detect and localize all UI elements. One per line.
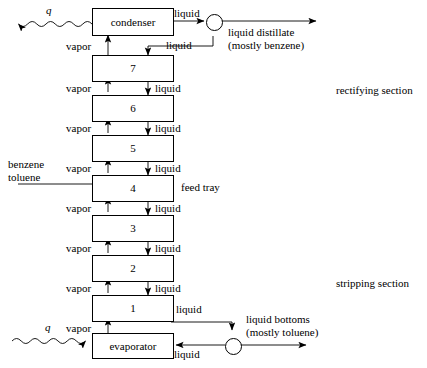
stripping-section-label: stripping section	[336, 277, 409, 290]
distillate-product-label-line1: liquid distillate	[228, 26, 294, 39]
feed-tray-label: feed tray	[181, 181, 220, 194]
unit-tray-4[interactable]: 4	[92, 175, 174, 202]
unit-condenser-label: condenser	[111, 17, 156, 28]
unit-tray-7[interactable]: 7	[92, 55, 174, 82]
heat-out-wavy-line	[18, 22, 92, 27]
vapor-label-6: vapor	[66, 242, 91, 255]
heat-in-label: q	[45, 321, 51, 334]
unit-tray-7-label: 7	[130, 63, 136, 74]
liquid-label-6: liquid	[155, 282, 181, 295]
reflux-splitter-node[interactable]	[206, 14, 223, 31]
vapor-label-2: vapor	[66, 82, 91, 95]
unit-tray-1-label: 1	[130, 303, 136, 314]
heat-out-label: q	[46, 4, 52, 17]
bottoms-product-label-line2: (mostly toluene)	[246, 326, 318, 339]
reflux-stream-label: liquid	[166, 39, 192, 52]
bottoms-from-tray1-line	[171, 315, 232, 330]
liquid-label-4: liquid	[155, 202, 181, 215]
rectifying-section-label: rectifying section	[336, 84, 413, 97]
liquid-label-5: liquid	[155, 242, 181, 255]
vapor-label-1: vapor	[66, 40, 91, 53]
vapor-label-7: vapor	[66, 282, 91, 295]
vapor-label-3: vapor	[66, 122, 91, 135]
distillate-stream-label: liquid	[174, 7, 200, 20]
unit-tray-2-label: 2	[130, 263, 136, 274]
unit-tray-5-label: 5	[130, 143, 136, 154]
unit-evaporator[interactable]: evaporator	[92, 333, 174, 359]
heat-in-wavy-line	[12, 339, 86, 344]
vapor-label-8: vapor	[66, 322, 91, 335]
distillate-product-label-line2: (mostly benzene)	[228, 39, 304, 52]
unit-condenser[interactable]: condenser	[92, 8, 174, 36]
unit-tray-5[interactable]: 5	[92, 135, 174, 162]
bottoms-return-label: liquid	[174, 348, 200, 361]
unit-tray-3[interactable]: 3	[92, 215, 174, 242]
feed-label-toluene: toluene	[8, 171, 40, 184]
bottoms-stream-label: liquid	[176, 303, 202, 316]
unit-tray-1[interactable]: 1	[92, 295, 174, 322]
vapor-label-4: vapor	[66, 162, 91, 175]
liquid-label-1: liquid	[155, 82, 181, 95]
feed-label-benzene: benzene	[8, 158, 44, 171]
vapor-label-5: vapor	[66, 202, 91, 215]
unit-tray-3-label: 3	[130, 223, 136, 234]
bottoms-splitter-node[interactable]	[225, 338, 242, 355]
unit-tray-2[interactable]: 2	[92, 255, 174, 282]
distillation-column-diagram: condenser 7 6 5 4 3 2 1 evaporator q q b…	[0, 0, 427, 368]
unit-tray-6[interactable]: 6	[92, 95, 174, 122]
unit-tray-4-label: 4	[130, 183, 136, 194]
liquid-label-2: liquid	[155, 122, 181, 135]
bottoms-product-label-line1: liquid bottoms	[246, 313, 310, 326]
unit-tray-6-label: 6	[130, 103, 136, 114]
liquid-label-3: liquid	[155, 162, 181, 175]
unit-evaporator-label: evaporator	[109, 341, 156, 352]
